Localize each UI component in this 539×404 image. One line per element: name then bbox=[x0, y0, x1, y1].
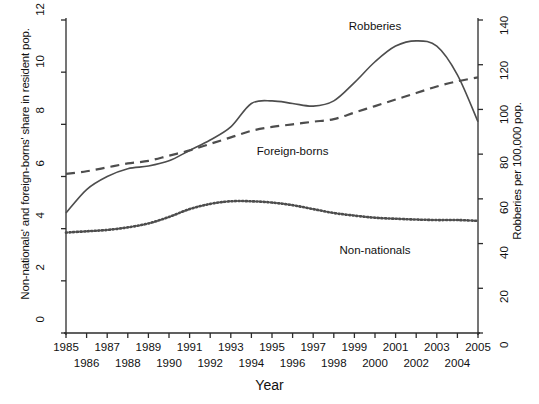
chart-figure: Non-nationals' and foreign-borns' share … bbox=[0, 0, 539, 404]
x-axis-tick-label-top: 1999 bbox=[331, 341, 377, 353]
x-axis-tick-label-top: 2003 bbox=[414, 341, 460, 353]
right-axis-tick-label: 60 bbox=[498, 180, 510, 214]
series-group bbox=[66, 41, 478, 233]
x-axis-tick-label-bottom: 1992 bbox=[187, 357, 233, 369]
x-axis-tick-label-bottom: 2004 bbox=[434, 357, 480, 369]
x-axis-tick-label-bottom: 1990 bbox=[146, 357, 192, 369]
x-axis-tick-label-top: 1987 bbox=[84, 341, 130, 353]
x-axis-title: Year bbox=[0, 377, 539, 393]
x-axis-tick-label-top: 1985 bbox=[43, 341, 89, 353]
x-axis-tick-label-top: 1995 bbox=[249, 341, 295, 353]
series-line-foreign-borns bbox=[66, 77, 478, 174]
y-axis-title-left: Non-nationals' and foreign-borns' share … bbox=[19, 0, 31, 329]
left-axis-tick-label: 6 bbox=[34, 160, 46, 190]
left-axis-tick-label: 12 bbox=[34, 3, 46, 33]
series-label-foreign-borns: Foreign-borns bbox=[257, 145, 329, 157]
x-axis-tick-label-bottom: 1998 bbox=[311, 357, 357, 369]
right-axis-tick-label: 20 bbox=[498, 269, 510, 303]
x-axis-tick-label-bottom: 2000 bbox=[352, 357, 398, 369]
right-axis-tick-label: 40 bbox=[498, 225, 510, 259]
x-axis-tick-label-top: 1993 bbox=[208, 341, 254, 353]
y-axis-title-right: Robberies per 100,000 pop. bbox=[511, 6, 523, 336]
right-axis-tick-label: 120 bbox=[498, 46, 510, 80]
x-axis-tick-label-bottom: 1986 bbox=[64, 357, 110, 369]
series-label-robberies: Robberies bbox=[349, 20, 401, 32]
left-axis-tick-label: 10 bbox=[34, 55, 46, 85]
right-axis-tick-label: 100 bbox=[498, 90, 510, 124]
x-axis-tick-label-bottom: 1988 bbox=[105, 357, 151, 369]
series-line-non-nationals bbox=[66, 201, 478, 233]
x-axis-tick-label-bottom: 1994 bbox=[228, 357, 274, 369]
x-axis-tick-label-top: 1997 bbox=[290, 341, 336, 353]
x-axis-tick-label-top: 2001 bbox=[373, 341, 419, 353]
series-label-non-nationals: Non-nationals bbox=[340, 244, 411, 256]
x-axis-tick-label-top: 2005 bbox=[455, 341, 501, 353]
axes-group bbox=[61, 18, 483, 338]
left-axis-tick-label: 2 bbox=[34, 264, 46, 294]
x-axis-tick-label-bottom: 2002 bbox=[393, 357, 439, 369]
left-axis-tick-label: 4 bbox=[34, 212, 46, 242]
x-axis-tick-label-bottom: 1996 bbox=[270, 357, 316, 369]
left-axis-tick-label: 8 bbox=[34, 107, 46, 137]
right-axis-tick-label: 80 bbox=[498, 135, 510, 169]
x-axis-tick-label-top: 1991 bbox=[167, 341, 213, 353]
right-axis-tick-label: 140 bbox=[498, 1, 510, 35]
x-axis-tick-label-top: 1989 bbox=[125, 341, 171, 353]
